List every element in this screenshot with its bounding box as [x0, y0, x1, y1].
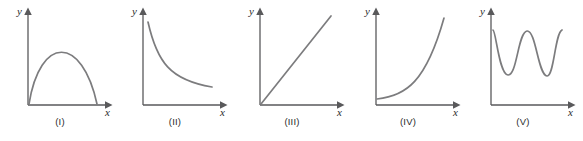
- curve-decay: [148, 22, 212, 87]
- panel-ii-plot: y x: [115, 0, 235, 120]
- panel-v-plot: y x: [463, 0, 583, 120]
- curve-parabola-down: [29, 52, 97, 104]
- panel-iii: y x (III): [232, 0, 352, 141]
- panel-caption-iii: (III): [232, 116, 352, 127]
- panel-caption-i: (I): [0, 116, 120, 127]
- panel-iii-plot: y x: [232, 0, 352, 120]
- y-axis-label: y: [131, 5, 137, 17]
- curve-straight-line: [261, 16, 331, 104]
- y-axis-label: y: [364, 5, 370, 17]
- y-axis-label: y: [16, 5, 22, 17]
- y-axis-label: y: [479, 5, 485, 17]
- curve-oscillating-wave: [493, 30, 562, 76]
- panel-i: y x (I): [0, 0, 120, 141]
- panel-ii: y x (II): [115, 0, 235, 141]
- panel-iv: y x (IV): [348, 0, 468, 141]
- panel-v: y x (V): [463, 0, 583, 141]
- panel-iv-plot: y x: [348, 0, 468, 120]
- panel-caption-ii: (II): [115, 116, 235, 127]
- panel-i-plot: y x: [0, 0, 120, 120]
- panel-caption-iv: (IV): [348, 116, 468, 127]
- y-axis-label: y: [248, 5, 254, 17]
- panel-caption-v: (V): [463, 116, 583, 127]
- graph-figure: y x (I) y x (II): [0, 0, 583, 141]
- curve-exponential: [377, 18, 444, 99]
